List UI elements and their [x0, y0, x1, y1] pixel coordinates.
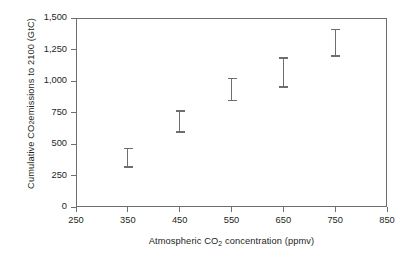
- y-axis-tick-label: 1,250: [7, 45, 67, 54]
- y-axis-tick: [71, 175, 76, 176]
- error-bar-cap-upper: [228, 78, 237, 80]
- x-axis-tick: [283, 207, 284, 212]
- error-bar-cap-upper: [176, 110, 185, 112]
- x-axis-title-post: concentration (ppmv): [222, 236, 314, 246]
- error-bar: [283, 57, 284, 88]
- y-axis-tick: [71, 18, 76, 19]
- error-bar: [179, 110, 180, 133]
- x-axis-tick: [335, 207, 336, 212]
- y-axis-tick: [71, 81, 76, 82]
- y-axis-tick-label: 750: [7, 108, 67, 117]
- error-bar: [231, 78, 232, 101]
- y-axis-tick-label: 500: [7, 139, 67, 148]
- error-bar-cap-lower: [124, 166, 133, 168]
- error-bar-cap-lower: [331, 55, 340, 57]
- y-axis-tick: [71, 49, 76, 50]
- y-axis-tick: [71, 144, 76, 145]
- error-bar-cap-lower: [279, 86, 288, 88]
- y-axis-title-post: emissions to 2100 (GtC): [26, 18, 36, 121]
- error-bar: [335, 29, 336, 57]
- y-axis-tick: [71, 112, 76, 113]
- x-axis-tick: [231, 207, 232, 212]
- y-axis-tick-label: 1,500: [7, 13, 67, 22]
- error-bar-cap-lower: [176, 131, 185, 133]
- error-bar-cap-upper: [279, 57, 288, 59]
- y-axis-tick-label: 250: [7, 171, 67, 180]
- y-axis-tick-label: 1,000: [7, 76, 67, 85]
- chart-container: Cumulative CO2 emissions to 2100 (GtC) A…: [0, 0, 412, 258]
- error-bar-cap-upper: [124, 148, 133, 150]
- x-axis-title-pre: Atmospheric CO: [149, 236, 219, 246]
- error-bar-cap-lower: [228, 100, 237, 102]
- x-axis-tick: [387, 207, 388, 212]
- x-axis-tick-label: 850: [357, 215, 412, 225]
- y-axis-tick-label: 0: [7, 202, 67, 211]
- x-axis-tick: [127, 207, 128, 212]
- x-axis-tick: [179, 207, 180, 212]
- error-bar-cap-upper: [331, 29, 340, 31]
- plot-area: [76, 18, 387, 207]
- y-axis-title-subscript: 2: [28, 121, 35, 125]
- x-axis-tick: [76, 207, 77, 212]
- x-axis-title: Atmospheric CO2 concentration (ppmv): [76, 236, 387, 247]
- error-bar: [127, 148, 128, 168]
